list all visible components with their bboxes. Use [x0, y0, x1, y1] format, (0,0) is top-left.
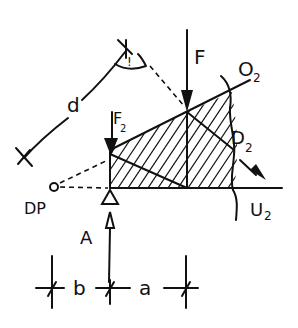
- angle-dashed-line: [150, 66, 184, 106]
- label-f: F: [194, 45, 206, 69]
- structural-diagram: F F 2 O 2 D 2 U 2 DP d ! A b a: [0, 0, 298, 328]
- reaction-a-arrowhead-icon: [106, 212, 114, 228]
- label-o2-sub: 2: [253, 71, 261, 85]
- label-d2-sub: 2: [245, 141, 253, 155]
- label-f2-sub: 2: [120, 123, 126, 134]
- support-triangle-icon: [102, 190, 118, 204]
- label-dp: DP: [24, 199, 46, 218]
- label-d: d: [67, 93, 80, 117]
- label-a: a: [139, 276, 151, 300]
- label-d2: D: [231, 127, 245, 148]
- label-o2: O: [238, 57, 254, 81]
- dp-point-icon: [50, 183, 58, 191]
- reaction-a-shaft: [109, 228, 110, 282]
- dp-dashed-diagonal: [60, 160, 108, 183]
- label-u2: U: [250, 199, 263, 220]
- label-angle-mark: !: [127, 55, 132, 69]
- label-b: b: [73, 276, 86, 300]
- label-u2-sub: 2: [264, 209, 272, 223]
- label-a-reaction: A: [80, 227, 93, 248]
- dp-dashed-horizontal: [60, 187, 108, 188]
- internal-diagonal-2: [187, 112, 234, 150]
